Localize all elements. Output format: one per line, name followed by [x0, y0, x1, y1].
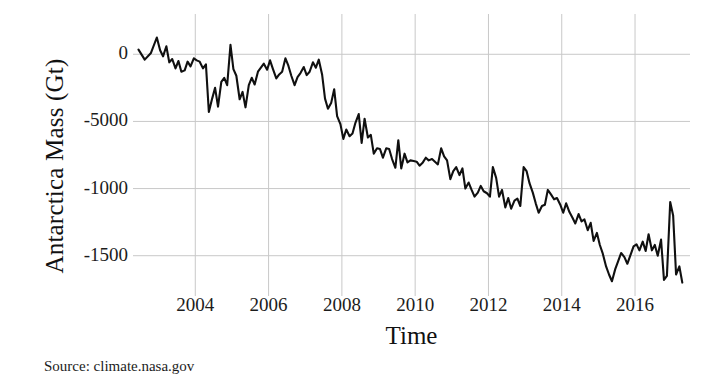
- source-caption: Source: climate.nasa.gov: [44, 358, 194, 375]
- x-axis-tick-label: 2016: [595, 294, 675, 316]
- antarctica-mass-chart-figure: Antarctica Mass (Gt) 0-5000-1000-1500 20…: [0, 0, 718, 390]
- data-series-line: [139, 38, 683, 283]
- y-axis-tick-label: -1500: [56, 244, 128, 266]
- x-axis-tick-label: 2006: [229, 294, 309, 316]
- vertical-gridlines: [195, 14, 635, 296]
- plot-area: [133, 14, 690, 296]
- x-axis-tick-label: 2008: [302, 294, 382, 316]
- x-axis-tick-label: 2014: [522, 294, 602, 316]
- x-axis-tick-label: 2004: [155, 294, 235, 316]
- x-axis-title: Time: [133, 322, 690, 350]
- chart-plot-svg: [133, 14, 690, 296]
- x-axis-tick-labels: 2004200620082010201220142016: [0, 294, 718, 322]
- y-axis-tick-label: -1000: [56, 177, 128, 199]
- y-axis-tick-label: -5000: [56, 109, 128, 131]
- y-axis-tick-labels: 0-5000-1000-1500: [50, 0, 128, 390]
- horizontal-gridlines: [133, 54, 690, 255]
- x-axis-tick-label: 2010: [375, 294, 455, 316]
- y-axis-tick-label: 0: [56, 42, 128, 64]
- x-axis-tick-label: 2012: [448, 294, 528, 316]
